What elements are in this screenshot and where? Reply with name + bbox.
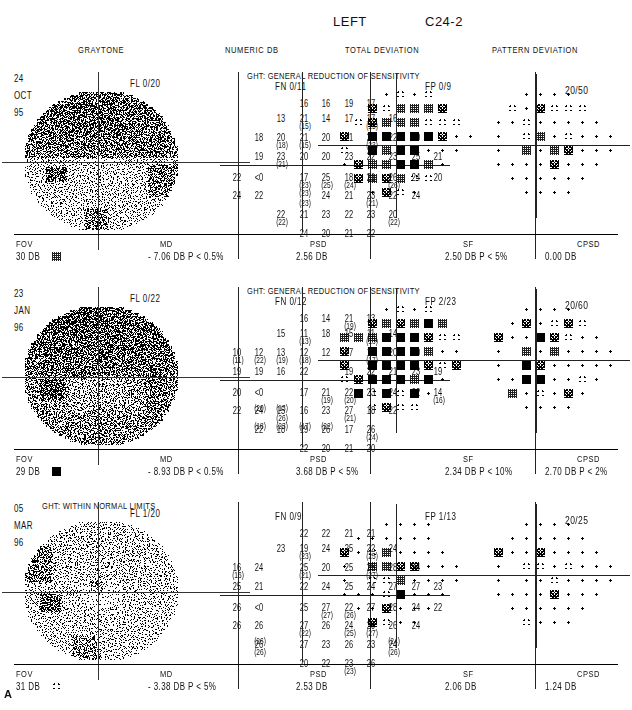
deviation-symbol-l1: [424, 118, 433, 127]
deviation-symbol-l2: [550, 146, 559, 155]
numeric-value: 14: [318, 112, 334, 124]
deviation-symbol-dot: [606, 361, 615, 370]
deviation-symbol-dot: [382, 534, 391, 543]
numeric-value: (24): [386, 636, 402, 645]
deviation-symbol-dot: [550, 548, 559, 557]
numeric-value: 17: [341, 423, 357, 435]
deviation-symbol-l1: [550, 576, 559, 585]
summary-value-sf: 2.34 DB P < 10%: [445, 466, 512, 478]
numeric-value: (22): [386, 217, 402, 226]
numeric-value: (18): [297, 355, 313, 364]
deviation-symbol-full: [396, 375, 405, 384]
grayscale-vertical-axis: [98, 72, 99, 250]
numeric-value: 24: [229, 189, 245, 201]
numeric-value: 21: [341, 189, 357, 201]
deviation-symbol-dot: [592, 146, 601, 155]
numeric-value: 26: [341, 638, 357, 650]
deviation-symbol-l1: [522, 118, 531, 127]
numeric-value: 26: [251, 619, 267, 631]
deviation-symbol-l1: [382, 590, 391, 599]
deviation-symbol-l2: [508, 389, 517, 398]
deviation-symbol-dot: [438, 347, 447, 356]
deviation-symbol-dot: [550, 618, 559, 627]
deviation-symbol-dot: [578, 146, 587, 155]
deviation-symbol-dot: [564, 520, 573, 529]
deviation-symbol-dot: [592, 562, 601, 571]
deviation-symbol-dot: [606, 562, 615, 571]
deviation-symbol-dot: [368, 590, 377, 599]
numeric-value: (22): [319, 421, 335, 430]
deviation-symbol-dot: [578, 333, 587, 342]
numeric-value: (21): [364, 198, 380, 207]
deviation-symbol-l3: [438, 104, 447, 113]
deviation-symbol-full: [382, 389, 391, 398]
deviation-symbol-dot: [424, 576, 433, 585]
deviation-symbol-dot: [564, 618, 573, 627]
deviation-symbol-l1: [368, 403, 377, 412]
numeric-value: 18: [251, 131, 267, 143]
pd-vertical-axis: [536, 74, 537, 218]
numeric-value: 20: [229, 386, 245, 398]
deviation-symbol-dot: [522, 576, 531, 585]
test-panel-0: 24OCT95GHT: GENERAL REDUCTION OF SENSITI…: [0, 68, 632, 276]
deviation-symbol-l3: [550, 590, 559, 599]
numeric-vertical-axis: [302, 502, 303, 662]
deviation-symbol-dot: [410, 534, 419, 543]
grayscale-canvas: [16, 301, 186, 451]
deviation-symbol-dot: [550, 90, 559, 99]
deviation-symbol-l3: [438, 132, 447, 141]
deviation-symbol-l3: [522, 319, 531, 328]
numeric-value: (22): [297, 628, 313, 637]
deviation-symbol-l1: [550, 104, 559, 113]
deviation-symbol-l3: [452, 361, 461, 370]
summary-separator-1: [370, 665, 371, 689]
deviation-symbol-dot: [508, 333, 517, 342]
deviation-symbol-l3: [382, 174, 391, 183]
deviation-symbol-l3: [340, 132, 349, 141]
deviation-symbol-dot: [508, 548, 517, 557]
deviation-symbol-dot: [550, 389, 559, 398]
summary-label-psd: PSD: [310, 238, 327, 250]
numeric-value: 12: [318, 346, 334, 358]
ght-message: GHT: GENERAL REDUCTION OF SENSITIVITY: [247, 285, 420, 297]
deviation-symbol-dot: [592, 361, 601, 370]
deviation-symbol-l3: [368, 118, 377, 127]
deviation-symbol-dot: [536, 188, 545, 197]
numeric-value: 20: [318, 561, 334, 573]
deviation-symbol-l2: [368, 160, 377, 169]
deviation-symbol-l1: [536, 562, 545, 571]
deviation-symbol-dot: [368, 534, 377, 543]
deviation-symbol-dot: [494, 562, 503, 571]
deviation-symbol-dot: [354, 548, 363, 557]
numeric-value: 19: [251, 150, 267, 162]
numeric-value: (23): [342, 666, 358, 675]
deviation-symbol-l1: [536, 389, 545, 398]
deviation-symbol-l1: [452, 118, 461, 127]
summary-value-psd: 3.68 DB P < 5%: [296, 466, 359, 478]
deviation-symbol-dot: [522, 548, 531, 557]
numeric-value: 25: [296, 601, 312, 613]
deviation-symbol-l1: [438, 361, 447, 370]
deviation-symbol-dot: [382, 520, 391, 529]
deviation-symbol-dot: [508, 319, 517, 328]
numeric-value: (15): [297, 140, 313, 149]
numeric-value: (17): [297, 421, 313, 430]
pd-horizontal-axis: [458, 575, 630, 576]
numeric-value: 26: [229, 601, 245, 613]
deviation-symbol-l1: [396, 389, 405, 398]
deviation-symbol-dot: [592, 333, 601, 342]
deviation-symbol-dot: [438, 548, 447, 557]
deviation-symbol-l3: [396, 319, 405, 328]
deviation-symbol-dot: [522, 604, 531, 613]
deviation-symbol-l2: [382, 146, 391, 155]
deviation-symbol-l2: [522, 347, 531, 356]
summary-label-fov: FOV: [16, 668, 33, 680]
deviation-symbol-dot: [494, 118, 503, 127]
deviation-symbol-dot: [522, 520, 531, 529]
summary-divider: [14, 449, 618, 450]
deviation-symbol-dot: [578, 118, 587, 127]
deviation-symbol-dot: [564, 118, 573, 127]
deviation-symbol-dot: [550, 534, 559, 543]
deviation-symbol-full: [410, 361, 419, 370]
deviation-symbol-dot: [536, 590, 545, 599]
